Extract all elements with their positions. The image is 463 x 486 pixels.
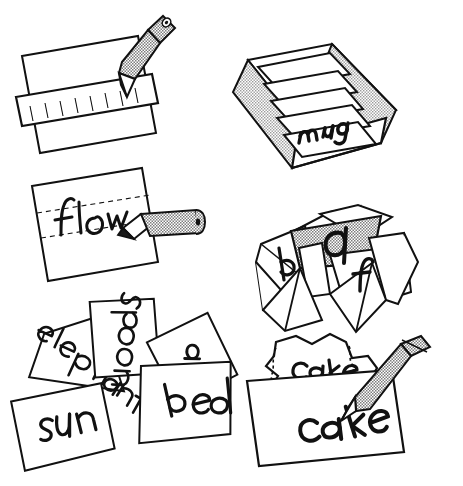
illustration-canvas: Making and storing word flashcards A bla…	[0, 0, 463, 486]
flashcard-illustration	[0, 0, 463, 486]
